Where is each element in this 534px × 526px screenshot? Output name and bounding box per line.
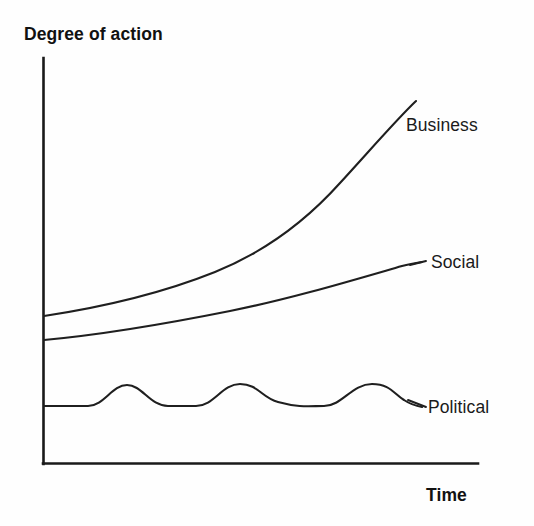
series-label-political: Political xyxy=(428,397,489,417)
series-curve-political xyxy=(44,384,422,407)
series-label-social: Social xyxy=(431,252,479,272)
series-label-business: Business xyxy=(406,115,478,135)
x-axis-title: Time xyxy=(426,485,467,505)
y-axis-title: Degree of action xyxy=(24,24,163,44)
series-curve-business xyxy=(44,101,416,316)
chart-figure: Degree of action Business Social Politic… xyxy=(0,0,534,526)
series-curve-social xyxy=(44,262,422,340)
line-chart-canvas: Degree of action Business Social Politic… xyxy=(0,0,534,526)
